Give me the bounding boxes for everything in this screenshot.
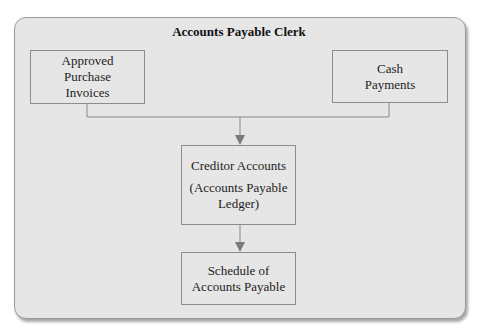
node-schedule-of-accounts-payable: Schedule of Accounts Payable bbox=[181, 252, 296, 305]
node-label: Accounts Payable bbox=[192, 279, 286, 295]
node-label: (Accounts Payable bbox=[190, 180, 288, 196]
node-label: Approved bbox=[62, 53, 114, 69]
node-label: Creditor Accounts bbox=[191, 158, 286, 174]
node-label: Cash bbox=[377, 61, 403, 77]
node-label: Ledger) bbox=[218, 196, 259, 212]
node-label: Payments bbox=[365, 77, 416, 93]
arrow-down-icon bbox=[235, 135, 245, 145]
node-approved-purchase-invoices: Approved Purchase Invoices bbox=[30, 50, 145, 104]
node-cash-payments: Cash Payments bbox=[332, 50, 448, 103]
node-label: Purchase bbox=[64, 69, 111, 85]
arrow-down-icon bbox=[235, 242, 245, 252]
node-label: Schedule of bbox=[208, 263, 270, 279]
node-label: Invoices bbox=[65, 85, 109, 101]
node-creditor-accounts: Creditor Accounts (Accounts Payable Ledg… bbox=[181, 145, 296, 225]
